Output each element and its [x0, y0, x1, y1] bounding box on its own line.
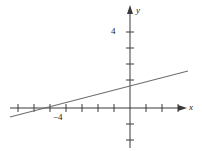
y-tick-label-4: 4 [111, 27, 116, 36]
line-graph-figure: y x 4 −4 [0, 0, 202, 151]
x-tick-label-neg4: −4 [53, 113, 63, 122]
x-axis-label: x [189, 103, 193, 112]
x-axis-arrowhead [178, 105, 187, 111]
coordinate-plane [0, 0, 202, 151]
y-axis-arrowhead [127, 5, 133, 14]
plotted-line [10, 71, 188, 117]
y-axis-group [127, 5, 133, 148]
y-axis-label: y [136, 6, 140, 15]
